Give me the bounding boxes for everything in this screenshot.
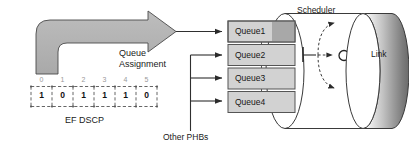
bit-value-1: 0 <box>56 90 70 100</box>
queue-label-3: Queue3 <box>235 73 265 83</box>
queue-label-2: Queue2 <box>235 50 265 60</box>
other-phbs-label: Other PHBs <box>163 133 208 143</box>
bit-index-0: 0 <box>35 76 49 83</box>
bit-index-4: 4 <box>119 76 133 83</box>
diffserv-queue-assignment-diagram: Queue Assignment 0 1 2 3 4 5 1 0 1 1 1 0… <box>0 0 409 148</box>
diagram-canvas <box>0 0 409 148</box>
link-cylinder-icon <box>346 14 409 129</box>
bit-value-3: 1 <box>98 90 112 100</box>
queue-label-4: Queue4 <box>235 97 265 107</box>
scheduler-label: Scheduler <box>297 6 335 16</box>
bit-index-2: 2 <box>77 76 91 83</box>
bit-value-5: 0 <box>140 90 154 100</box>
bit-value-2: 1 <box>77 90 91 100</box>
link-label: Link <box>371 50 387 60</box>
queue-label-1: Queue1 <box>235 26 265 36</box>
bit-value-4: 1 <box>119 90 133 100</box>
scheduler-selector-arcs <box>318 23 334 88</box>
bit-index-1: 1 <box>56 76 70 83</box>
bit-value-0: 1 <box>35 90 49 100</box>
queue-assignment-label-line1: Queue <box>119 48 146 58</box>
bit-index-5: 5 <box>140 76 154 83</box>
queue-assignment-label-line2: Assignment <box>119 59 166 69</box>
bit-index-3: 3 <box>98 76 112 83</box>
ef-dscp-label: EF DSCP <box>65 115 104 125</box>
other-phbs-bus <box>191 55 223 127</box>
scheduler-lever-icon <box>303 47 316 62</box>
